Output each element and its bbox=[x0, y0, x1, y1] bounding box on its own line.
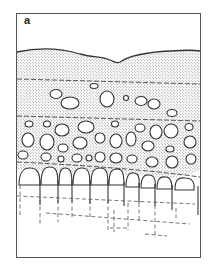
panel-label: a bbox=[24, 14, 30, 26]
diagram-figure: a bbox=[0, 0, 213, 268]
diagram-svg bbox=[0, 0, 213, 268]
